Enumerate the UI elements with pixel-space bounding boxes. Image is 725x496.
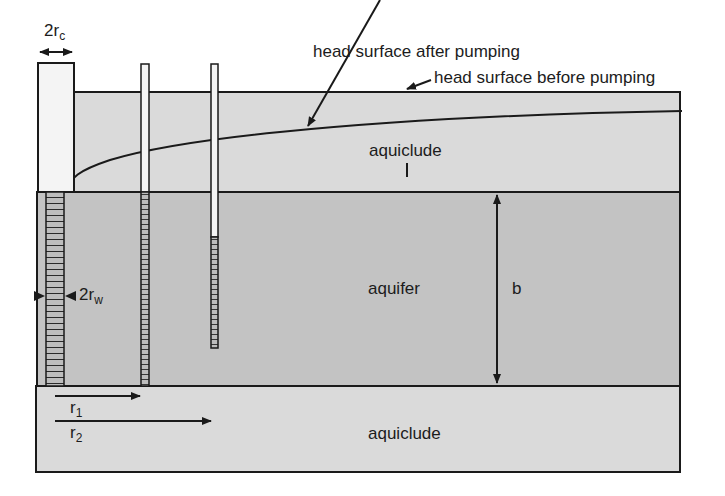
head-before-leader-arrow bbox=[407, 80, 431, 89]
well-diameter-subscript: w bbox=[94, 293, 103, 307]
r1-subscript: 1 bbox=[76, 406, 83, 420]
aquifer-label: aquifer bbox=[368, 280, 420, 297]
piezometer-2-casing bbox=[211, 64, 218, 237]
head-before-pumping-label: head surface before pumping bbox=[434, 69, 655, 86]
r2-label: r2 bbox=[70, 424, 82, 444]
casing-diameter-subscript: c bbox=[59, 29, 65, 43]
piezometer-1-casing bbox=[141, 64, 149, 192]
pumping-well-casing bbox=[38, 63, 74, 192]
head-after-pumping-label: head surface after pumping bbox=[313, 43, 520, 60]
lower-aquiclude-layer bbox=[36, 386, 680, 472]
thickness-label: b bbox=[512, 280, 521, 297]
aquifer-layer bbox=[37, 192, 680, 386]
r1-label: r1 bbox=[70, 399, 82, 419]
upper-aquiclude-label: aquiclude bbox=[369, 142, 442, 159]
lower-aquiclude-label: aquiclude bbox=[368, 425, 441, 442]
piezometer-1-screen bbox=[141, 192, 149, 386]
casing-diameter-label: 2rc bbox=[44, 22, 65, 42]
r2-subscript: 2 bbox=[76, 431, 83, 445]
well-diameter-text: 2r bbox=[79, 285, 94, 304]
casing-diameter-text: 2r bbox=[44, 21, 59, 40]
piezometer-2-screen bbox=[211, 237, 218, 348]
pumping-well-screen bbox=[46, 192, 64, 386]
well-diameter-label: 2rw bbox=[79, 286, 103, 306]
